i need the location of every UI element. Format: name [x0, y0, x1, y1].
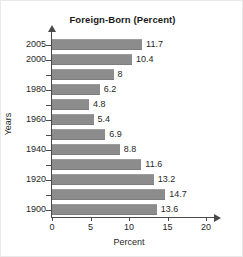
x-axis-tick: [52, 217, 53, 221]
x-axis-line: [51, 217, 215, 218]
bar-value-label: 14.7: [169, 190, 187, 199]
bar-value-label: 13.2: [158, 175, 176, 184]
bar-row: 14.7: [52, 189, 187, 200]
y-axis-tick: [46, 60, 51, 61]
bar-row: 8: [52, 69, 123, 80]
y-axis-tick-label: 1980: [2, 85, 46, 94]
y-axis-tick: [46, 180, 51, 181]
bar-value-label: 13.6: [161, 205, 179, 214]
bar-row: 13.2: [52, 174, 175, 185]
x-axis-title: Percent: [52, 237, 206, 247]
x-axis-tick-label: 10: [119, 223, 139, 232]
x-axis-arrow-icon: [214, 214, 221, 222]
bar: [52, 54, 132, 65]
x-axis-tick: [129, 217, 130, 221]
y-axis-tick-label: 1940: [2, 145, 46, 154]
bar-row: 4.8: [52, 99, 105, 110]
bar-value-label: 10.4: [136, 55, 154, 64]
y-axis-tick: [46, 195, 51, 196]
bar-row: 6.9: [52, 129, 122, 140]
bar-value-label: 4.8: [93, 100, 106, 109]
y-axis-tick-label: 2000: [2, 55, 46, 64]
bar: [52, 159, 141, 170]
bar: [52, 129, 105, 140]
y-axis-tick: [46, 105, 51, 106]
x-axis-tick: [168, 217, 169, 221]
y-axis-tick: [46, 150, 51, 151]
y-axis-tick: [46, 45, 51, 46]
y-axis-title: Years: [3, 104, 13, 144]
y-axis-arrow-icon: [48, 25, 56, 32]
bar-chart-figure: Foreign-Born (Percent) 20052000198019601…: [0, 0, 243, 257]
bar-value-label: 6.2: [104, 85, 117, 94]
bar: [52, 39, 142, 50]
bar-value-label: 11.7: [146, 40, 163, 49]
x-axis-tick: [91, 217, 92, 221]
bar-value-label: 6.9: [109, 130, 122, 139]
bar-row: 5.4: [52, 114, 110, 125]
y-axis-tick: [46, 135, 51, 136]
x-axis-tick: [206, 217, 207, 221]
bar: [52, 114, 94, 125]
bar-row: 11.6: [52, 159, 162, 170]
y-axis-tick-label: 2005: [2, 40, 46, 49]
bar: [52, 144, 120, 155]
bar-value-label: 5.4: [98, 115, 111, 124]
bar: [52, 69, 114, 80]
bar-row: 13.6: [52, 204, 178, 215]
bar: [52, 84, 100, 95]
y-axis-tick: [46, 120, 51, 121]
bar-value-label: 8: [118, 70, 123, 79]
bar-value-label: 8.8: [124, 145, 137, 154]
y-axis-tick-label: 1920: [2, 175, 46, 184]
bar-value-label: 11.6: [145, 160, 162, 169]
y-axis-tick: [46, 210, 51, 211]
bar: [52, 189, 165, 200]
bar: [52, 99, 89, 110]
x-axis-tick-label: 15: [158, 223, 178, 232]
y-axis-tick-label: 1900: [2, 205, 46, 214]
bar: [52, 204, 157, 215]
bar-row: 10.4: [52, 54, 154, 65]
bar-row: 8.8: [52, 144, 136, 155]
y-axis-tick: [46, 75, 51, 76]
bar-row: 11.7: [52, 39, 163, 50]
y-axis-tick: [46, 90, 51, 91]
plot-area: 11.710.486.24.85.46.98.811.613.214.713.6: [52, 37, 206, 217]
y-axis-tick: [46, 165, 51, 166]
x-axis-tick-label: 5: [81, 223, 101, 232]
bar-row: 6.2: [52, 84, 116, 95]
x-axis-tick-label: 20: [196, 223, 216, 232]
x-axis-tick-label: 0: [42, 223, 62, 232]
bar: [52, 174, 154, 185]
